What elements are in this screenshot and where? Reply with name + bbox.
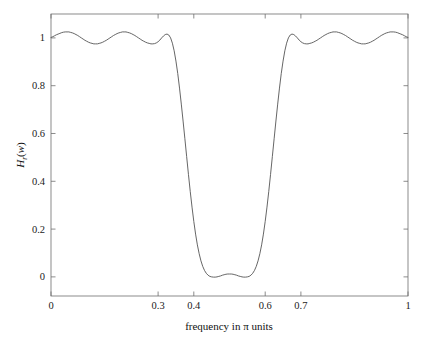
y-tick-label: 0.2 bbox=[32, 224, 45, 235]
y-tick-label: 0.4 bbox=[32, 176, 46, 187]
y-axis-title-close-paren: ) bbox=[14, 142, 27, 146]
chart-canvas: 00.30.40.60.71 00.20.40.60.81 frequency … bbox=[0, 0, 428, 343]
x-tick-label: 0 bbox=[48, 300, 53, 311]
x-axis-title: frequency in π units bbox=[185, 320, 273, 332]
figure-background bbox=[0, 0, 428, 343]
y-tick-label: 0.6 bbox=[32, 128, 45, 139]
x-tick-label: 0.3 bbox=[152, 300, 165, 311]
filter-response-figure: 00.30.40.60.71 00.20.40.60.81 frequency … bbox=[0, 0, 428, 343]
x-tick-label: 0.7 bbox=[294, 300, 307, 311]
y-tick-label: 0 bbox=[40, 271, 45, 282]
x-tick-label: 1 bbox=[405, 300, 410, 311]
y-tick-label: 1 bbox=[40, 32, 45, 43]
y-tick-label: 0.8 bbox=[32, 80, 45, 91]
x-tick-label: 0.4 bbox=[187, 300, 201, 311]
x-tick-label: 0.6 bbox=[259, 300, 272, 311]
